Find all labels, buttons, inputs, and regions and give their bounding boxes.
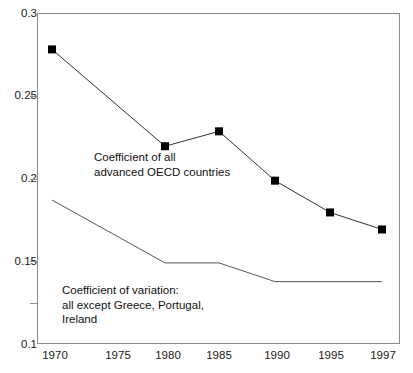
series-line-all-oecd (52, 49, 382, 229)
annotation-all-oecd: Coefficient of all advanced OECD countri… (94, 150, 230, 179)
data-point-marker (378, 225, 386, 233)
annotation-coefficient-of-variation: Coefficient of variation: all except Gre… (62, 283, 204, 327)
data-point-marker (271, 177, 279, 185)
data-point-marker (48, 45, 56, 53)
data-point-marker (326, 208, 334, 216)
series-markers-all-oecd (48, 45, 386, 233)
chart-container: 0.3 0.25 0.2 0.15 0.1 1970 1975 1980 198… (0, 0, 413, 373)
data-point-marker (215, 127, 223, 135)
